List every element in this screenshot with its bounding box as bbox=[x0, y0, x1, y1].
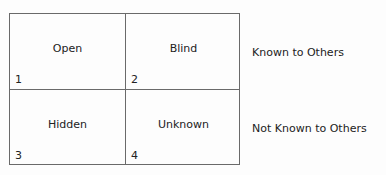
row-label-known-to-others: Known to Others bbox=[252, 46, 344, 60]
quadrant-number: 2 bbox=[131, 73, 138, 87]
quadrant-number: 3 bbox=[15, 149, 22, 163]
quadrant-label: Hidden bbox=[10, 118, 125, 132]
quadrant-number: 4 bbox=[131, 149, 138, 163]
quadrant-number: 1 bbox=[15, 73, 22, 87]
quadrant-label: Unknown bbox=[126, 118, 241, 132]
row-label-not-known-to-others: Not Known to Others bbox=[252, 122, 367, 136]
quadrant-label: Blind bbox=[126, 42, 241, 56]
quadrant-blind: Blind 2 bbox=[126, 14, 241, 89]
quadrant-open: Open 1 bbox=[10, 14, 125, 89]
johari-window-grid: Open 1 Blind 2 Hidden 3 Unknown 4 bbox=[9, 13, 240, 165]
quadrant-hidden: Hidden 3 bbox=[10, 90, 125, 165]
quadrant-label: Open bbox=[10, 42, 125, 56]
quadrant-unknown: Unknown 4 bbox=[126, 90, 241, 165]
